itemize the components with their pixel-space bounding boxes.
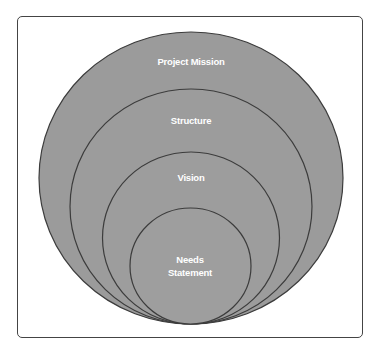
label-needs: Needs [176,254,204,265]
label-statement: Statement [168,267,213,278]
nested-circles-diagram: Project Mission Structure Vision Needs S… [0,0,382,356]
label-vision: Vision [177,172,205,183]
label-structure: Structure [171,115,211,126]
circle-needs-statement [130,208,251,324]
label-project-mission: Project Mission [157,56,225,67]
